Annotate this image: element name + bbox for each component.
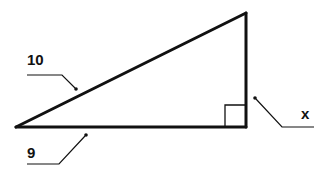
hypotenuse-label: 10	[27, 51, 44, 68]
triangle	[16, 13, 246, 127]
hypotenuse-leader	[27, 75, 78, 91]
right-angle-marker	[225, 105, 246, 127]
base-leader	[27, 133, 88, 164]
right-triangle-diagram: 10 9 x	[0, 0, 327, 173]
base-label: 9	[27, 144, 35, 161]
hypotenuse-side	[16, 13, 246, 127]
height-label: x	[301, 105, 310, 122]
